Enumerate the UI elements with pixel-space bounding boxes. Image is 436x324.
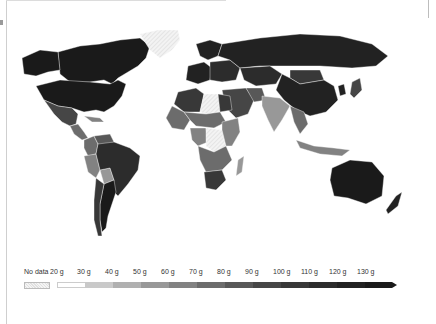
- region-central-america[interactable]: Central America: [70, 124, 88, 140]
- legend-color-bin: [281, 282, 309, 288]
- region-caribbean[interactable]: Caribbean: [84, 116, 104, 122]
- region-japan[interactable]: Japan: [350, 78, 362, 98]
- legend-color-bin: [365, 282, 392, 288]
- legend-arrow-icon: [392, 282, 398, 288]
- region-madagascar[interactable]: Madagascar: [236, 156, 244, 176]
- legend-tick-label: 40 g: [105, 268, 119, 275]
- legend-color-bin: [253, 282, 281, 288]
- legend-tick-label: 50 g: [133, 268, 147, 275]
- legend-tick-label: 80 g: [217, 268, 231, 275]
- legend-color-bin: [197, 282, 225, 288]
- legend-color-bin: [113, 282, 141, 288]
- legend: No data 20 g30 g40 g50 g60 g70 g80 g90 g…: [0, 268, 436, 292]
- legend-tick-label: 100 g: [273, 268, 291, 275]
- legend-color-bin: [85, 282, 113, 288]
- region-australia[interactable]: Australia: [330, 160, 384, 204]
- legend-color-bin: [169, 282, 197, 288]
- region-kazakhstan[interactable]: Kazakhstan: [240, 66, 282, 86]
- legend-tick-label: 90 g: [245, 268, 259, 275]
- region-egypt[interactable]: Egypt: [218, 94, 232, 112]
- region-alaska[interactable]: Alaska: [22, 50, 60, 76]
- region-russia[interactable]: Russia: [218, 34, 388, 68]
- legend-no-data-label: No data: [24, 268, 49, 275]
- region-algeria[interactable]: Algeria: [174, 88, 204, 112]
- legend-tick-label: 30 g: [77, 268, 91, 275]
- legend-tick-label: 120 g: [329, 268, 347, 275]
- region-korea[interactable]: Korea: [338, 84, 346, 96]
- legend-color-bin: [141, 282, 169, 288]
- region-new-zealand[interactable]: New Zealand: [386, 192, 402, 214]
- region-south-africa[interactable]: South Africa: [204, 170, 226, 190]
- region-scandinavia[interactable]: Scandinavia: [196, 40, 222, 60]
- legend-no-data-swatch: [24, 282, 50, 289]
- legend-tick-label: 130 g: [357, 268, 375, 275]
- legend-tick-label: 20 g: [50, 268, 64, 275]
- world-map[interactable]: CanadaUnited StatesAlaskaGreenlandMexico…: [0, 0, 436, 260]
- legend-tick-label: 60 g: [161, 268, 175, 275]
- legend-tick-label: 110 g: [301, 268, 318, 275]
- region-western-europe[interactable]: Western Europe: [186, 62, 212, 84]
- legend-color-bin: [225, 282, 253, 288]
- region-indonesia[interactable]: Indonesia: [296, 140, 350, 156]
- region-central-africa[interactable]: Central Africa: [190, 128, 208, 146]
- region-sahel[interactable]: Sahel: [184, 112, 226, 128]
- legend-color-bin: [337, 282, 365, 288]
- legend-color-bin: [57, 282, 87, 288]
- region-canada[interactable]: Canada: [58, 38, 150, 84]
- legend-tick-label: 70 g: [189, 268, 203, 275]
- legend-color-bin: [309, 282, 337, 288]
